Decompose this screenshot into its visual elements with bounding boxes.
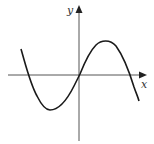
y-axis-arrow-icon xyxy=(76,5,83,13)
y-axis-label: y xyxy=(66,4,74,17)
x-axis-label: x xyxy=(141,78,148,91)
function-graph: y x xyxy=(0,0,154,144)
